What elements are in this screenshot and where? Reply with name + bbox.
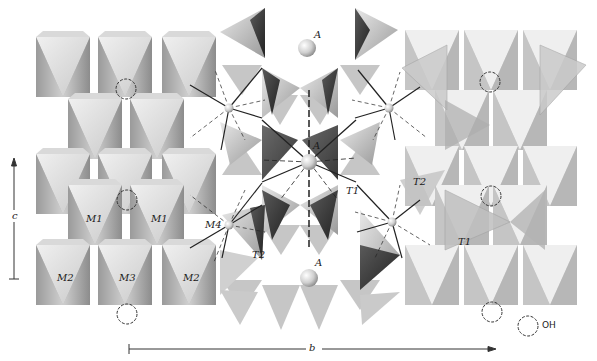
label-m4: M4 bbox=[205, 220, 222, 230]
m4-sphere bbox=[225, 221, 234, 230]
m4-sphere bbox=[225, 104, 234, 113]
legend-oh-label: OH bbox=[542, 321, 556, 330]
label-a-center: A bbox=[313, 141, 320, 151]
structure-drawing bbox=[0, 0, 597, 361]
label-a-bottom: A bbox=[315, 258, 322, 268]
a-site-sphere-center bbox=[301, 154, 317, 170]
label-m2-left: M2 bbox=[57, 273, 74, 283]
label-m1-right: M1 bbox=[151, 214, 168, 224]
label-t2-right: T2 bbox=[413, 177, 426, 187]
m4-sphere bbox=[385, 104, 394, 113]
axis-c-label: c bbox=[10, 211, 20, 221]
label-t1-center: T1 bbox=[346, 186, 359, 196]
label-m2-right: M2 bbox=[183, 273, 200, 283]
label-m1-left: M1 bbox=[86, 214, 103, 224]
axis-b-label: b bbox=[307, 343, 317, 353]
label-m3: M3 bbox=[119, 273, 136, 283]
m4-sphere bbox=[388, 218, 397, 227]
label-t2-center: T2 bbox=[252, 250, 265, 260]
octahedral-strip-left bbox=[36, 31, 216, 305]
octahedral-strip-right bbox=[400, 30, 586, 305]
crystal-structure-diagram: A A A M1 M1 M2 M3 M2 M4 T1 T2 T2 T1 c b … bbox=[0, 0, 597, 361]
label-a-top: A bbox=[314, 30, 321, 40]
a-site-sphere-top bbox=[298, 39, 316, 57]
a-site-sphere-bottom bbox=[300, 269, 318, 287]
label-t1-right: T1 bbox=[458, 237, 471, 247]
